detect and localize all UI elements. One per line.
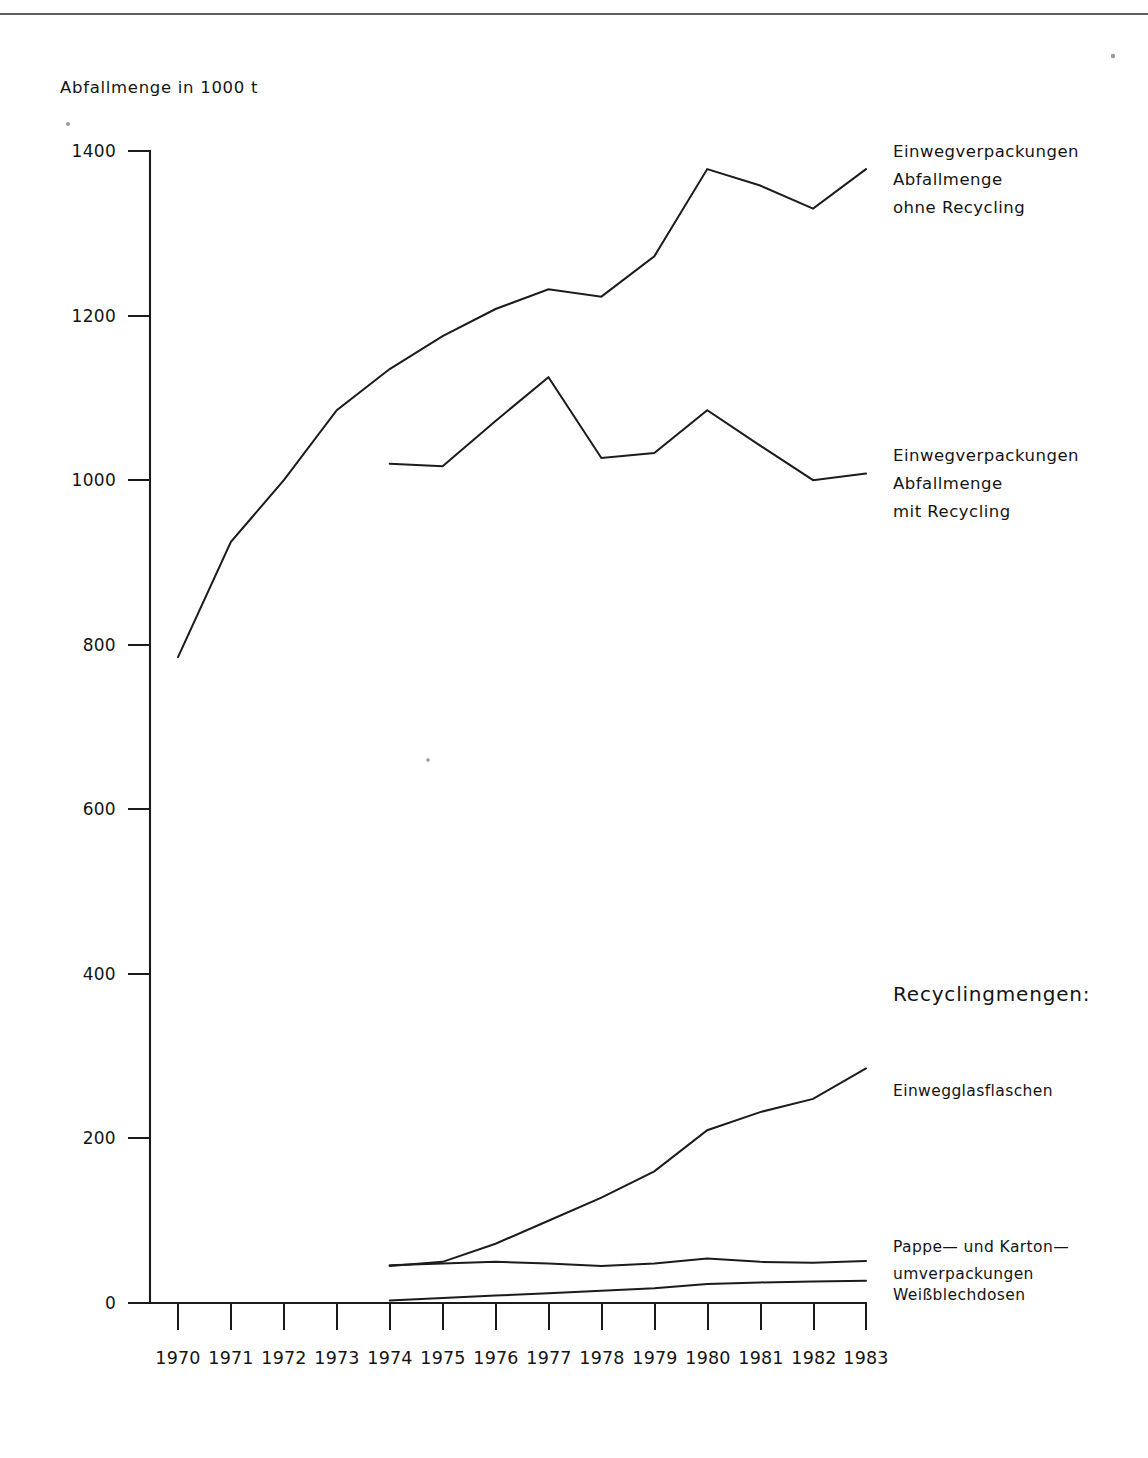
y-tick-600: 600 bbox=[83, 799, 116, 819]
x-tick-1970: 1970 bbox=[155, 1348, 200, 1368]
y-tick-800: 800 bbox=[83, 635, 116, 655]
y-tick-1200: 1200 bbox=[72, 306, 116, 326]
scan-speck bbox=[426, 758, 430, 762]
y-tick-200: 200 bbox=[83, 1128, 116, 1148]
x-tick-1980: 1980 bbox=[685, 1348, 730, 1368]
legend-recyclingmengen-heading: Recyclingmengen: bbox=[893, 982, 1090, 1006]
scan-speck bbox=[1111, 54, 1115, 58]
waste-volume-line-chart: Abfallmenge in 1000 t 1400 1200 1000 800… bbox=[0, 0, 1148, 1458]
legend-ohne-line2: Abfallmenge bbox=[893, 170, 1003, 189]
x-tick-1978: 1978 bbox=[579, 1348, 624, 1368]
scan-speck bbox=[66, 122, 70, 126]
y-axis-title: Abfallmenge in 1000 t bbox=[60, 78, 258, 97]
y-tick-0: 0 bbox=[105, 1293, 116, 1313]
x-tick-1974: 1974 bbox=[367, 1348, 412, 1368]
x-tick-1977: 1977 bbox=[526, 1348, 571, 1368]
y-tick-1000: 1000 bbox=[72, 470, 116, 490]
x-tick-1971: 1971 bbox=[208, 1348, 253, 1368]
x-tick-1981: 1981 bbox=[738, 1348, 783, 1368]
x-tick-1979: 1979 bbox=[632, 1348, 677, 1368]
legend-ohne-line1: Einwegverpackungen bbox=[893, 142, 1079, 161]
legend-ohne-line3: ohne Recycling bbox=[893, 198, 1025, 217]
legend-mit-line1: Einwegverpackungen bbox=[893, 446, 1079, 465]
x-tick-1972: 1972 bbox=[261, 1348, 306, 1368]
y-tick-1400: 1400 bbox=[72, 141, 116, 161]
legend-mit-line3: mit Recycling bbox=[893, 502, 1011, 521]
legend-pappe-line1: Pappe— und Karton— bbox=[893, 1238, 1069, 1256]
y-tick-400: 400 bbox=[83, 964, 116, 984]
x-tick-1982: 1982 bbox=[791, 1348, 836, 1368]
legend-einwegglasflaschen: Einwegglasflaschen bbox=[893, 1082, 1053, 1100]
legend-weissblechdosen: Weißblechdosen bbox=[893, 1286, 1025, 1304]
x-tick-1975: 1975 bbox=[420, 1348, 465, 1368]
legend-pappe-line2: umverpackungen bbox=[893, 1265, 1034, 1283]
x-tick-1973: 1973 bbox=[314, 1348, 359, 1368]
legend-mit-line2: Abfallmenge bbox=[893, 474, 1003, 493]
x-tick-1983: 1983 bbox=[843, 1348, 888, 1368]
x-tick-1976: 1976 bbox=[473, 1348, 518, 1368]
